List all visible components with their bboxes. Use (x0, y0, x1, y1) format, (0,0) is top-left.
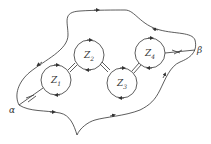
point-beta-label: β (197, 46, 202, 55)
cut-z1-z2 (68, 63, 77, 72)
circle-z4-label: Z4 (145, 49, 155, 60)
z3-sub: 3 (123, 83, 127, 90)
z4-sub: 4 (151, 53, 155, 60)
cut-z4-beta (165, 50, 195, 54)
point-alpha-label: α (9, 106, 15, 115)
z1-sub: 1 (57, 80, 61, 87)
outer-boundary-contour (17, 10, 196, 135)
cut-alpha-z1 (19, 88, 43, 105)
diagram-canvas (0, 0, 211, 144)
cut-z3-z4 (132, 63, 141, 73)
circle-z1-label: Z1 (51, 76, 61, 87)
contour-diagram: α β Z1 Z2 Z3 Z4 (0, 0, 211, 144)
circle-z3-label: Z3 (117, 79, 127, 90)
z2-sub: 2 (90, 55, 94, 62)
circle-z2-label: Z2 (84, 51, 94, 62)
